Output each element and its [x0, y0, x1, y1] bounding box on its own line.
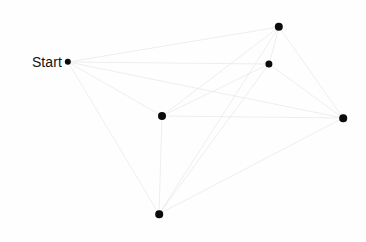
- graph-edge: [68, 27, 279, 62]
- graph-edge: [162, 64, 269, 116]
- start-node-label: Start: [32, 55, 62, 69]
- bottom-node[interactable]: [155, 210, 163, 218]
- graph-edge: [269, 64, 343, 118]
- graph-edges-layer: [0, 0, 366, 242]
- graph-edge: [159, 118, 343, 214]
- graph-edge: [162, 116, 343, 118]
- graph-edge: [68, 62, 269, 64]
- graph-edge: [159, 116, 162, 214]
- graph-edge: [159, 27, 279, 214]
- graph-edge: [269, 27, 279, 64]
- right-node[interactable]: [339, 114, 347, 122]
- graph-edge: [162, 27, 279, 116]
- graph-edge: [68, 62, 159, 214]
- graph-edge: [68, 62, 162, 116]
- center-node[interactable]: [158, 112, 166, 120]
- graph-edge: [159, 64, 269, 214]
- graph-canvas: Start: [0, 0, 366, 242]
- graph-edge: [279, 27, 343, 118]
- graph-edge: [68, 62, 343, 118]
